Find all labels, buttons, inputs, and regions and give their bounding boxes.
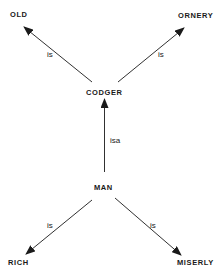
edge-codger-ornery [118,28,184,82]
node-rich: RICH [8,258,29,267]
edge-label-codger-ornery: is [158,50,164,59]
edge-label-man-miserly: is [150,221,156,230]
node-old: OLD [10,10,28,19]
edge-codger-old [24,27,92,82]
node-codger: CODGER [86,88,123,97]
node-miserly: MISERLY [177,258,214,267]
edge-man-miserly [115,198,181,255]
edge-label-man-codger: isa [110,136,120,145]
edge-label-codger-old: is [47,50,53,59]
edge-label-man-rich: is [47,221,53,230]
edge-man-rich [26,200,92,254]
node-man: MAN [94,183,113,192]
node-ornery: ORNERY [178,11,213,20]
